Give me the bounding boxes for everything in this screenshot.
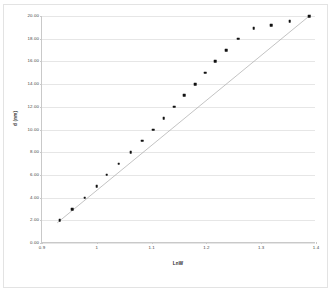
data-point: [308, 15, 311, 18]
data-point: [152, 128, 155, 131]
x-axis-tick-label: 1.1: [148, 246, 154, 250]
data-point: [183, 94, 186, 97]
x-axis-tick-label: 0.9: [39, 246, 45, 250]
y-axis-tick-label: 14.00: [28, 82, 40, 86]
data-point: [173, 106, 176, 109]
x-axis-tick-mark: [97, 242, 98, 244]
data-point: [288, 20, 291, 23]
x-axis-tick-mark: [206, 242, 207, 244]
x-axis-tick-label: 1.3: [258, 246, 264, 250]
data-point: [237, 37, 240, 40]
data-point: [71, 208, 74, 211]
x-axis-tick-mark: [152, 242, 153, 244]
y-axis-tick-label: 18.00: [28, 36, 40, 40]
data-point: [214, 60, 217, 63]
x-axis-tick-label: 1.2: [203, 246, 209, 250]
x-axis-tick-mark: [261, 242, 262, 244]
y-axis-title: d (nm): [14, 98, 19, 138]
data-point: [141, 140, 144, 143]
trend-line: [42, 16, 315, 242]
gridline-horizontal: [42, 243, 315, 244]
data-point: [162, 117, 165, 120]
y-axis-tick-label: 4.00: [30, 195, 39, 199]
y-axis-tick-label: 0.00: [30, 241, 39, 245]
data-point: [252, 27, 255, 30]
x-axis-tick-label: 1.4: [313, 246, 319, 250]
data-point: [58, 219, 61, 222]
chart-figure: 0.002.004.006.008.0010.0012.0014.0016.00…: [0, 0, 332, 293]
data-point: [225, 49, 228, 52]
y-axis-tick-label: 10.00: [28, 127, 40, 131]
data-point: [117, 162, 120, 165]
x-axis-tick-mark: [316, 242, 317, 244]
data-point: [204, 71, 207, 74]
x-axis-tick-label: 1: [96, 246, 99, 250]
x-axis-title: LnW: [41, 262, 315, 267]
y-axis-tick-label: 2.00: [30, 218, 39, 222]
data-point: [105, 174, 108, 177]
data-point: [96, 185, 99, 188]
data-point: [270, 24, 273, 27]
data-point: [83, 196, 86, 199]
y-axis-tick-label: 20.00: [28, 14, 40, 18]
data-point: [194, 83, 197, 86]
x-axis-tick-mark: [42, 242, 43, 244]
y-axis-tick-label: 6.00: [30, 173, 39, 177]
data-point: [129, 151, 132, 154]
y-axis-tick-label: 16.00: [28, 59, 40, 63]
y-axis-tick-label: 12.00: [28, 105, 40, 109]
plot-area: 0.002.004.006.008.0010.0012.0014.0016.00…: [41, 16, 315, 243]
y-axis-tick-label: 8.00: [30, 150, 39, 154]
